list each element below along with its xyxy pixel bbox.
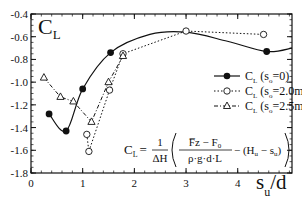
legend-marker-open-circle — [224, 88, 230, 94]
cl-chart: -0.4-0.6-0.8-1.0-1.2-1.4-1.6-1.801234 CL… — [0, 0, 302, 197]
legend-marker-filled-circle — [224, 73, 231, 80]
formula-lhs: CL= — [124, 142, 147, 159]
data-point-filled-circle — [46, 111, 53, 118]
y-tick-label: -1.2 — [11, 99, 28, 111]
legend-item-s25: CL (so=2.5m) — [214, 99, 302, 115]
svg-text:CL (so=2.5m): CL (so=2.5m) — [245, 99, 302, 115]
formula-frac2-den: ρ·g·d·L — [188, 152, 222, 164]
y-tick-label: -1.8 — [11, 167, 29, 179]
legend: CL (so=0) CL (so=2.0m) CL (so=2.5m) — [214, 69, 302, 115]
data-point-open-circle — [260, 31, 266, 37]
formula-tail: − (Hu − su) — [234, 144, 282, 158]
y-tick-label: -0.6 — [11, 31, 29, 43]
legend-marker-open-triangle — [224, 102, 231, 109]
x-tick-label: 3 — [183, 177, 189, 189]
data-point-filled-circle — [63, 128, 70, 135]
svg-text:CL (so=0): CL (so=0) — [245, 69, 289, 85]
x-tick-label: 4 — [235, 177, 241, 189]
data-point-open-circle — [106, 87, 112, 93]
data-point-open-circle — [84, 131, 90, 137]
data-point-open-triangle — [88, 118, 95, 125]
formula-annotation: CL= 1 ΔH F̅z − F0 ρ·g·d·L − (Hu − su) — [124, 133, 289, 167]
y-tick-label: -1.4 — [11, 122, 29, 134]
formula-left-paren — [172, 133, 176, 167]
formula-frac1-num: 1 — [157, 136, 163, 148]
x-tick-label: 1 — [80, 177, 86, 189]
y-axis-title: CL — [38, 14, 61, 42]
x-axis-label: su/d — [256, 170, 287, 197]
data-point-open-circle — [183, 28, 189, 34]
x-tick-label: 0 — [28, 177, 34, 189]
formula-frac2-num: F̅z − F0 — [189, 136, 222, 150]
legend-item-s2: CL (so=2.0m) — [214, 84, 302, 100]
y-axis-title-sub: L — [53, 27, 61, 42]
y-tick-label: -1.0 — [11, 76, 29, 88]
legend-item-s0: CL (so=0) — [214, 69, 289, 85]
formula-frac1-den: ΔH — [152, 152, 167, 164]
y-tick-label: -0.8 — [11, 53, 29, 65]
data-point-open-triangle — [40, 74, 47, 81]
data-point-filled-circle — [79, 86, 86, 93]
y-tick-label: -0.4 — [11, 8, 29, 20]
data-point-filled-circle — [107, 49, 114, 56]
x-axis-label-tail: /d — [270, 170, 287, 194]
y-tick-label: -1.6 — [11, 144, 29, 156]
data-point-open-triangle — [105, 78, 112, 85]
svg-text:CL (so=2.0m): CL (so=2.0m) — [245, 84, 302, 100]
data-point-filled-circle — [263, 48, 270, 55]
data-point-open-circle — [86, 148, 92, 154]
x-tick-label: 2 — [132, 177, 138, 189]
series-line-1 — [87, 31, 264, 151]
